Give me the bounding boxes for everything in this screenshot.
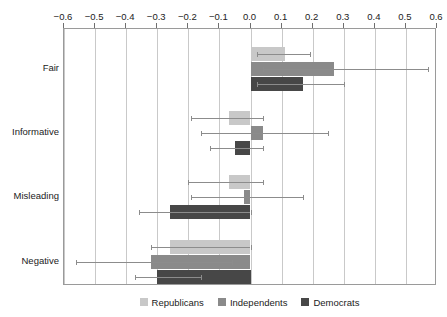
y-axis-category-label: Fair bbox=[43, 62, 59, 73]
error-bar-cap bbox=[151, 245, 152, 250]
legend-swatch-icon bbox=[140, 298, 148, 306]
x-axis-tick-mark bbox=[250, 23, 251, 28]
x-axis-tick-mark bbox=[405, 23, 406, 28]
x-axis-tick-mark bbox=[187, 23, 188, 28]
error-bar-cap bbox=[210, 146, 211, 151]
error-bar-cap bbox=[263, 180, 264, 185]
error-bar-cap bbox=[251, 245, 252, 250]
error-bar-cap bbox=[263, 116, 264, 121]
legend-item-independents[interactable]: Independents bbox=[218, 297, 288, 308]
error-bar bbox=[201, 133, 328, 134]
gridline bbox=[344, 29, 345, 284]
error-bar-cap bbox=[191, 195, 192, 200]
error-bar bbox=[263, 69, 428, 70]
y-axis-category-label: Negative bbox=[22, 255, 60, 266]
x-axis-tick-mark bbox=[436, 23, 437, 28]
legend-swatch-icon bbox=[218, 298, 226, 306]
error-bar-cap bbox=[257, 82, 258, 87]
error-bar-cap bbox=[135, 275, 136, 280]
x-axis-tick-mark bbox=[218, 23, 219, 28]
x-axis-tick-mark bbox=[312, 23, 313, 28]
error-bar-cap bbox=[310, 52, 311, 57]
error-bar-cap bbox=[201, 275, 202, 280]
x-axis-tick-mark bbox=[125, 23, 126, 28]
error-bar-cap bbox=[76, 260, 77, 265]
error-bar-cap bbox=[263, 67, 264, 72]
legend-label: Republicans bbox=[152, 297, 204, 308]
x-axis-tick-label: 0.6 bbox=[416, 11, 447, 22]
y-axis-category-label: Misleading bbox=[14, 190, 59, 201]
error-bar-cap bbox=[344, 82, 345, 87]
plot-area bbox=[63, 28, 436, 285]
x-axis-tick-mark bbox=[343, 23, 344, 28]
x-axis-tick-mark bbox=[374, 23, 375, 28]
legend-item-republicans[interactable]: Republicans bbox=[140, 297, 204, 308]
legend-label: Independents bbox=[230, 297, 288, 308]
error-bar bbox=[76, 262, 231, 263]
legend-swatch-icon bbox=[301, 298, 309, 306]
error-bar-cap bbox=[328, 131, 329, 136]
error-bar-cap bbox=[191, 116, 192, 121]
legend-label: Democrats bbox=[313, 297, 359, 308]
error-bar bbox=[191, 118, 262, 119]
x-axis-tick-mark bbox=[156, 23, 157, 28]
error-bar-cap bbox=[139, 210, 140, 215]
error-bar bbox=[139, 212, 251, 213]
error-bar-cap bbox=[251, 210, 252, 215]
error-bar-cap bbox=[257, 52, 258, 57]
gridline bbox=[126, 29, 127, 284]
x-axis-tick-mark bbox=[281, 23, 282, 28]
error-bar-cap bbox=[201, 131, 202, 136]
error-bar bbox=[210, 148, 263, 149]
bar-chart: RepublicansIndependentsDemocrats −0.6−0.… bbox=[0, 0, 447, 317]
gridline bbox=[95, 29, 96, 284]
x-axis-tick-mark bbox=[63, 23, 64, 28]
legend-item-democrats[interactable]: Democrats bbox=[301, 297, 359, 308]
y-axis-category-label: Informative bbox=[12, 126, 59, 137]
gridline bbox=[406, 29, 407, 284]
error-bar bbox=[257, 54, 310, 55]
error-bar-cap bbox=[232, 260, 233, 265]
x-axis-tick-mark bbox=[94, 23, 95, 28]
error-bar bbox=[135, 277, 200, 278]
error-bar-cap bbox=[263, 146, 264, 151]
error-bar-cap bbox=[428, 67, 429, 72]
error-bar-cap bbox=[303, 195, 304, 200]
chart-legend: RepublicansIndependentsDemocrats bbox=[63, 294, 436, 310]
error-bar bbox=[191, 197, 303, 198]
gridline bbox=[375, 29, 376, 284]
error-bar-cap bbox=[188, 180, 189, 185]
error-bar bbox=[257, 84, 344, 85]
gridline bbox=[64, 29, 65, 284]
error-bar bbox=[151, 247, 250, 248]
error-bar bbox=[188, 182, 263, 183]
